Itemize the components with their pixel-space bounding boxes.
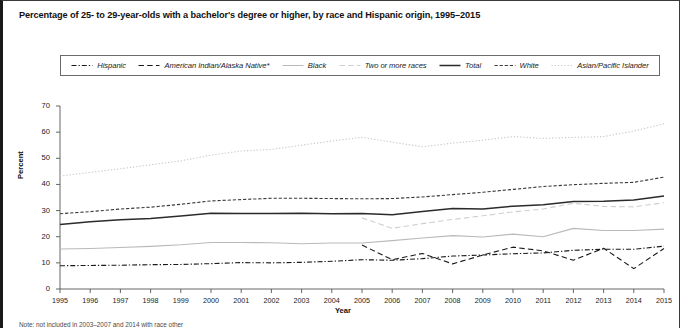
x-tick-label: 1995 [43, 296, 77, 305]
x-tick-label: 2004 [315, 296, 349, 305]
y-tick-label: 30 [24, 206, 50, 215]
x-tick-label: 2005 [345, 296, 379, 305]
x-tick-label: 2002 [254, 296, 288, 305]
x-tick-label: 2013 [587, 296, 621, 305]
x-tick-label: 2001 [224, 296, 258, 305]
series-line [60, 228, 664, 249]
x-tick-label: 1999 [164, 296, 198, 305]
series-line [60, 124, 664, 176]
series-line [362, 245, 664, 269]
chart-footnote: Note: not included in 2003–2007 and 2014… [19, 321, 669, 328]
series-line [60, 196, 664, 225]
y-tick-label: 0 [24, 284, 50, 293]
y-tick-label: 40 [24, 179, 50, 188]
x-tick-label: 1996 [73, 296, 107, 305]
x-tick-label: 2006 [375, 296, 409, 305]
y-tick-label: 60 [24, 127, 50, 136]
plot-area [3, 1, 680, 328]
x-tick-label: 1998 [134, 296, 168, 305]
x-axis-label: Year [3, 306, 680, 315]
plot-svg [3, 1, 680, 328]
x-tick-label: 1997 [103, 296, 137, 305]
series-line [60, 246, 664, 266]
y-tick-label: 10 [24, 258, 50, 267]
x-tick-label: 2003 [285, 296, 319, 305]
x-tick-label: 2010 [496, 296, 530, 305]
figure-container: Percentage of 25- to 29-year-olds with a… [0, 0, 680, 328]
x-tick-label: 2009 [466, 296, 500, 305]
x-tick-label: 2011 [526, 296, 560, 305]
x-tick-label: 2015 [647, 296, 680, 305]
x-tick-label: 2012 [556, 296, 590, 305]
series-line [60, 177, 664, 214]
x-tick-label: 2000 [194, 296, 228, 305]
y-tick-label: 70 [24, 101, 50, 110]
x-tick-label: 2014 [617, 296, 651, 305]
x-tick-label: 2007 [405, 296, 439, 305]
x-tick-label: 2008 [436, 296, 470, 305]
y-tick-label: 20 [24, 232, 50, 241]
y-tick-label: 50 [24, 153, 50, 162]
